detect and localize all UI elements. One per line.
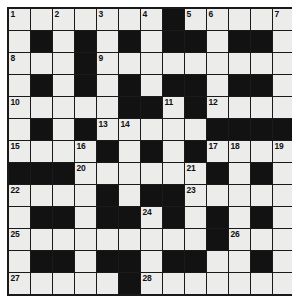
crossword-cell-open[interactable] [141,31,162,52]
crossword-cell-open[interactable] [31,141,52,162]
crossword-cell-open[interactable] [185,119,206,140]
crossword-cell-open[interactable] [75,185,96,206]
crossword-cell-open[interactable] [97,97,118,118]
crossword-cell-open[interactable]: 8 [9,53,30,74]
crossword-cell-open[interactable] [273,31,292,52]
crossword-cell-open[interactable] [273,75,292,96]
crossword-cell-open[interactable] [75,9,96,30]
crossword-cell-open[interactable] [75,273,96,294]
crossword-cell-open[interactable]: 10 [9,97,30,118]
crossword-cell-open[interactable] [251,185,272,206]
crossword-cell-open[interactable] [141,119,162,140]
crossword-cell-open[interactable] [207,31,228,52]
crossword-cell-open[interactable] [53,119,74,140]
crossword-cell-open[interactable] [141,163,162,184]
crossword-cell-open[interactable] [141,251,162,272]
crossword-cell-open[interactable] [273,97,292,118]
crossword-cell-open[interactable]: 25 [9,229,30,250]
crossword-cell-open[interactable] [119,229,140,250]
crossword-cell-open[interactable] [119,53,140,74]
crossword-cell-open[interactable]: 4 [141,9,162,30]
crossword-cell-open[interactable] [75,229,96,250]
crossword-cell-open[interactable] [75,97,96,118]
crossword-cell-open[interactable] [9,251,30,272]
crossword-cell-open[interactable] [53,53,74,74]
crossword-cell-open[interactable]: 20 [75,163,96,184]
crossword-cell-open[interactable] [163,141,184,162]
crossword-cell-open[interactable]: 24 [141,207,162,228]
crossword-cell-open[interactable] [207,273,228,294]
crossword-cell-open[interactable] [53,229,74,250]
crossword-cell-open[interactable] [251,53,272,74]
crossword-cell-open[interactable] [31,53,52,74]
crossword-cell-open[interactable] [141,53,162,74]
crossword-cell-open[interactable] [119,185,140,206]
crossword-cell-open[interactable] [229,53,250,74]
crossword-cell-open[interactable] [97,75,118,96]
crossword-cell-open[interactable]: 27 [9,273,30,294]
crossword-cell-open[interactable] [53,75,74,96]
crossword-cell-open[interactable] [31,97,52,118]
crossword-cell-open[interactable] [53,273,74,294]
crossword-cell-open[interactable] [229,273,250,294]
crossword-cell-open[interactable]: 13 [97,119,118,140]
crossword-cell-open[interactable] [273,185,292,206]
crossword-cell-open[interactable] [251,9,272,30]
crossword-cell-open[interactable] [273,251,292,272]
crossword-cell-open[interactable]: 21 [185,163,206,184]
crossword-cell-open[interactable] [75,207,96,228]
crossword-cell-open[interactable] [273,163,292,184]
crossword-cell-open[interactable] [185,207,206,228]
crossword-cell-open[interactable]: 9 [97,53,118,74]
crossword-cell-open[interactable] [97,273,118,294]
crossword-cell-open[interactable] [31,9,52,30]
crossword-cell-open[interactable]: 17 [207,141,228,162]
crossword-cell-open[interactable] [119,141,140,162]
crossword-cell-open[interactable]: 6 [207,9,228,30]
crossword-cell-open[interactable] [251,229,272,250]
crossword-cell-open[interactable] [163,229,184,250]
crossword-cell-open[interactable] [207,185,228,206]
crossword-cell-open[interactable] [75,251,96,272]
crossword-cell-open[interactable]: 15 [9,141,30,162]
crossword-cell-open[interactable]: 26 [229,229,250,250]
crossword-cell-open[interactable]: 12 [207,97,228,118]
crossword-cell-open[interactable] [119,163,140,184]
crossword-cell-open[interactable]: 23 [185,185,206,206]
crossword-cell-open[interactable] [229,9,250,30]
crossword-cell-open[interactable] [207,251,228,272]
crossword-cell-open[interactable] [163,53,184,74]
crossword-cell-open[interactable] [229,97,250,118]
crossword-cell-open[interactable] [53,185,74,206]
crossword-cell-open[interactable]: 22 [9,185,30,206]
crossword-cell-open[interactable] [229,207,250,228]
crossword-cell-open[interactable] [229,163,250,184]
crossword-cell-open[interactable] [251,97,272,118]
crossword-cell-open[interactable]: 3 [97,9,118,30]
crossword-cell-open[interactable] [273,273,292,294]
crossword-cell-open[interactable] [207,75,228,96]
crossword-grid[interactable]: 1234567891011121314151617181920212223242… [7,7,292,296]
crossword-cell-open[interactable] [141,75,162,96]
crossword-cell-open[interactable] [207,53,228,74]
crossword-cell-open[interactable] [185,273,206,294]
crossword-cell-open[interactable] [9,119,30,140]
crossword-cell-open[interactable]: 5 [185,9,206,30]
crossword-cell-open[interactable] [97,229,118,250]
crossword-cell-open[interactable] [163,273,184,294]
crossword-cell-open[interactable] [163,119,184,140]
crossword-cell-open[interactable] [9,207,30,228]
crossword-cell-open[interactable]: 2 [53,9,74,30]
crossword-cell-open[interactable] [273,229,292,250]
crossword-cell-open[interactable]: 7 [273,9,292,30]
crossword-cell-open[interactable] [119,9,140,30]
crossword-cell-open[interactable] [185,53,206,74]
crossword-cell-open[interactable]: 16 [75,141,96,162]
crossword-cell-open[interactable] [97,163,118,184]
crossword-cell-open[interactable] [31,273,52,294]
crossword-cell-open[interactable] [31,229,52,250]
crossword-cell-open[interactable]: 11 [163,97,184,118]
crossword-cell-open[interactable] [31,185,52,206]
crossword-cell-open[interactable] [97,31,118,52]
crossword-cell-open[interactable] [9,31,30,52]
